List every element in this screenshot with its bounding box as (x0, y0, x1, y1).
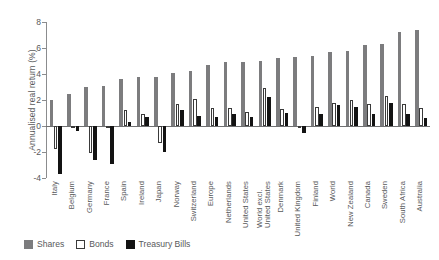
bar-shares (119, 79, 123, 126)
bar-group (99, 22, 116, 178)
bar-bonds (228, 108, 232, 126)
bar-bonds (89, 126, 93, 153)
y-axis-tick-label: 8 (36, 18, 41, 27)
bar-group (221, 22, 238, 178)
bar-shares (398, 32, 402, 126)
bar-bills (424, 118, 428, 126)
x-axis-label: Sweden (381, 181, 389, 209)
y-axis-tick (42, 22, 46, 23)
bar-bills (232, 114, 236, 126)
x-axis-label: New Zealand (347, 181, 355, 227)
bar-bonds (54, 126, 58, 149)
bar-bonds (211, 108, 215, 126)
bar-bills (197, 116, 201, 126)
bar-bills (372, 114, 376, 126)
bar-bills (58, 126, 62, 174)
bar-shares (380, 44, 384, 126)
bar-group (378, 22, 395, 178)
y-axis-tick-label: 6 (36, 44, 41, 53)
bar-shares (276, 58, 280, 126)
bar-bills (93, 126, 97, 160)
bar-group (291, 22, 308, 178)
x-axis-label: Germany (86, 181, 94, 213)
bar-bills (319, 114, 323, 126)
bar-shares (67, 94, 71, 127)
x-axis-label: South Africa (399, 181, 407, 223)
bar-shares (171, 73, 175, 126)
bar-bonds (263, 88, 267, 126)
bar-bonds (71, 126, 75, 128)
legend-label: Bonds (89, 239, 113, 249)
bar-group (413, 22, 430, 178)
bar-bills (337, 105, 341, 126)
bar-bonds (280, 109, 284, 126)
legend-label: Shares (37, 239, 64, 249)
bar-group (343, 22, 360, 178)
x-axis-label: Europe (207, 181, 215, 206)
bar-bonds (176, 104, 180, 126)
bar-bills (128, 122, 132, 126)
bar-shares (311, 56, 315, 126)
bar-group (47, 22, 64, 178)
x-axis-label: Denmark (277, 181, 285, 213)
legend-item-shares: Shares (24, 239, 64, 249)
bar-shares (415, 30, 419, 126)
bar-bonds (332, 103, 336, 126)
bar-bonds (245, 112, 249, 126)
bar-group (134, 22, 151, 178)
bar-shares (363, 45, 367, 126)
legend-item-bonds: Bonds (76, 239, 113, 249)
legend-label: Treasury Bills (139, 239, 191, 249)
x-axis-label: France (103, 181, 111, 205)
legend-swatch-bonds (76, 240, 85, 249)
y-axis-tick (42, 74, 46, 75)
y-axis-tick-label: 0 (36, 122, 41, 131)
bar-bonds (193, 99, 197, 126)
x-axis-label: Spain (120, 181, 128, 201)
x-axis-label: Norway (173, 181, 181, 207)
bar-group (82, 22, 99, 178)
bar-shares (346, 51, 350, 126)
x-axis-label: United States (242, 181, 250, 228)
x-axis-label: Australia (416, 181, 424, 211)
bar-bonds (385, 96, 389, 126)
bar-group (239, 22, 256, 178)
y-axis-tick (42, 152, 46, 153)
y-axis-tick-label: -2 (33, 148, 41, 157)
bar-shares (224, 62, 228, 126)
bar-group (326, 22, 343, 178)
y-axis-tick (42, 48, 46, 49)
legend-swatch-bills (126, 240, 135, 249)
bar-group (395, 22, 412, 178)
x-axis-label: World (329, 181, 337, 201)
y-axis-tick (42, 100, 46, 101)
y-axis-tick (42, 178, 46, 179)
bar-group (360, 22, 377, 178)
bar-bills (267, 97, 271, 126)
x-axis-label: Italy (51, 181, 59, 195)
bar-bonds (141, 114, 145, 126)
legend-item-bills: Treasury Bills (126, 239, 191, 249)
bar-bills (389, 103, 393, 126)
bar-shares (84, 87, 88, 126)
bar-group (64, 22, 81, 178)
bar-bills (354, 107, 358, 127)
y-axis-tick-label: 2 (36, 96, 41, 105)
bar-shares (241, 62, 245, 126)
x-axis-label: Canada (364, 181, 372, 208)
bar-bills (76, 126, 80, 131)
x-axis-label: Japan (155, 181, 163, 202)
bar-bills (302, 126, 306, 133)
y-axis-tick-label: 4 (36, 70, 41, 79)
x-axis-label: Ireland (138, 181, 146, 205)
x-axis-label: World excl.United States (256, 181, 272, 228)
bar-chart: Annualised real return (%) 86420-2-4 Ita… (0, 0, 439, 260)
bar-bonds (419, 108, 423, 126)
bar-bonds (315, 107, 319, 127)
plot-area: 86420-2-4 (46, 22, 430, 178)
bar-group (151, 22, 168, 178)
legend-swatch-shares (24, 240, 33, 249)
bar-bonds (124, 110, 128, 126)
bar-bonds (158, 126, 162, 143)
bar-group (169, 22, 186, 178)
